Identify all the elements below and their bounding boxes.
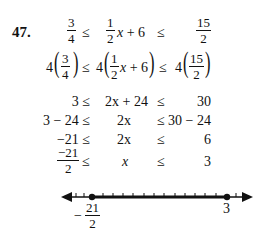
closed-endpoint-right (224, 194, 230, 200)
number-line-left-label: 21 2 (85, 201, 100, 230)
number-line-right-label: 3 (223, 202, 230, 216)
left-arrow-icon (61, 192, 72, 202)
right-arrow-icon (242, 192, 253, 202)
number-line-neg-sign: − (74, 209, 82, 223)
number-line (0, 0, 258, 234)
